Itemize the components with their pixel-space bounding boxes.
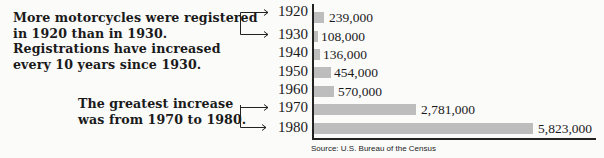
bar-1980 — [314, 123, 533, 134]
year-label-1930: 1930 — [258, 26, 308, 43]
value-label-1970: 2,781,000 — [421, 102, 475, 118]
bar-1920 — [314, 12, 324, 23]
bar-1940 — [314, 49, 320, 60]
bar-1960 — [314, 86, 334, 97]
year-label-1980: 1980 — [258, 119, 308, 136]
bar-1970 — [314, 104, 416, 115]
year-label-1970: 1970 — [258, 99, 308, 116]
value-label-1950: 454,000 — [334, 65, 378, 81]
value-label-1980: 5,823,000 — [538, 121, 592, 137]
year-label-1940: 1940 — [258, 44, 308, 61]
year-label-1920: 1920 — [258, 3, 308, 20]
value-label-1940: 136,000 — [323, 47, 367, 63]
bar-1950 — [314, 67, 331, 78]
value-label-1960: 570,000 — [338, 84, 382, 100]
source-note: Source: U.S. Bureau of the Census — [311, 144, 436, 153]
year-label-1950: 1950 — [258, 63, 308, 80]
value-label-1920: 239,000 — [329, 10, 373, 26]
bar-1930 — [314, 31, 318, 42]
year-label-1960: 1960 — [258, 81, 308, 98]
x-axis — [312, 138, 596, 140]
value-label-1930: 108,000 — [321, 29, 365, 45]
